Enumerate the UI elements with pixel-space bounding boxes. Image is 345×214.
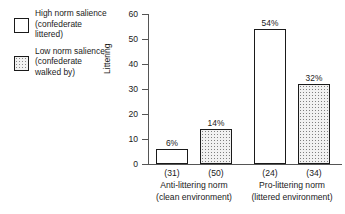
legend-label-line-1: Low norm salience xyxy=(35,46,105,56)
bar-sample-size-label: (24) xyxy=(262,168,277,178)
y-axis-tick-mark xyxy=(142,164,148,165)
y-axis-tick-mark xyxy=(142,89,148,90)
x-axis-group-label-line-1: Pro-littering norm xyxy=(251,180,332,192)
bar: 54% xyxy=(254,29,286,164)
y-axis-tick: 30 xyxy=(142,89,148,90)
y-axis-tick-label: 20 xyxy=(128,109,142,119)
bar-sample-size-label: (34) xyxy=(306,168,321,178)
bar-chart: Littering 0102030405060 6%14%54%32% (31)… xyxy=(104,14,342,200)
x-axis-line xyxy=(148,164,342,165)
bar-sample-size-label: (50) xyxy=(208,168,223,178)
legend-label-line-3: littered) xyxy=(35,29,63,39)
y-axis-line xyxy=(148,14,149,164)
bar-sample-size-label: (31) xyxy=(164,168,179,178)
legend-item-label: Low norm salience (confederate walked by… xyxy=(35,46,105,78)
bar: 14% xyxy=(200,129,232,164)
x-axis-group-label-line-2: (littered environment) xyxy=(251,192,332,204)
y-axis-tick-mark xyxy=(142,39,148,40)
y-axis-tick: 0 xyxy=(142,164,148,165)
x-axis-group-label-line-1: Anti-littering norm xyxy=(156,180,232,192)
y-axis-tick-label: 60 xyxy=(128,9,142,19)
y-axis-tick-label: 30 xyxy=(128,84,142,94)
bar-value-label: 54% xyxy=(262,18,279,28)
y-axis-tick-mark xyxy=(142,64,148,65)
y-axis-tick-mark xyxy=(142,14,148,15)
y-axis-tick-label: 10 xyxy=(128,134,142,144)
y-axis-tick-mark xyxy=(142,114,148,115)
x-axis-group-label-line-2: (clean environment) xyxy=(156,192,232,204)
y-axis-tick: 20 xyxy=(142,114,148,115)
y-axis-tick-label: 0 xyxy=(133,159,142,169)
open-square-swatch-icon xyxy=(14,18,29,33)
bar-value-label: 32% xyxy=(306,73,323,83)
x-axis-group-label: Anti-littering norm(clean environment) xyxy=(156,180,232,203)
legend-label-line-2: (confederate xyxy=(35,19,82,29)
bar-value-label: 14% xyxy=(208,118,225,128)
legend-label-line-2: (confederate xyxy=(35,56,82,66)
bar: 6% xyxy=(156,149,188,164)
legend-label-line-1: High norm salience xyxy=(35,8,107,18)
bar-value-label: 6% xyxy=(166,138,178,148)
y-axis-tick-mark xyxy=(142,139,148,140)
y-axis-tick-label: 50 xyxy=(128,34,142,44)
y-axis-tick: 60 xyxy=(142,14,148,15)
x-axis-group-label: Pro-littering norm(littered environment) xyxy=(251,180,332,203)
y-axis-tick: 40 xyxy=(142,64,148,65)
legend-label-line-3: walked by) xyxy=(35,67,75,77)
y-axis-tick: 10 xyxy=(142,139,148,140)
y-axis-tick-label: 40 xyxy=(128,59,142,69)
y-axis-tick: 50 xyxy=(142,39,148,40)
legend-item-label: High norm salience (confederate littered… xyxy=(35,8,107,40)
bar: 32% xyxy=(298,84,330,164)
stippled-square-swatch-icon xyxy=(14,56,29,71)
y-axis-title: Littering xyxy=(102,43,112,74)
